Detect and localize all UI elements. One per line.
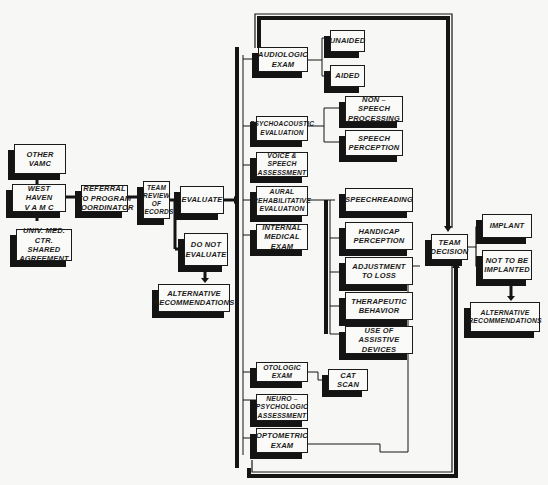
handicap-perception-box: HANDICAP PERCEPTION (345, 222, 413, 250)
aided-box: AIDED (330, 65, 365, 87)
cochlear-implant-evaluation-flowchart: OTHER VAMC WEST HAVEN V A M C UNIV. MED.… (0, 0, 548, 485)
other-vamc-box: OTHER VAMC (14, 144, 66, 174)
univ-med-ctr-box: UNIV. MED. CTR. SHARED AGREEMENT (16, 229, 72, 261)
speech-perception-box: SPEECH PERCEPTION (345, 130, 403, 156)
west-haven-vamc-box: WEST HAVEN V A M C (12, 184, 66, 212)
therapeutic-behavior-box: THERAPEUTIC BEHAVIOR (345, 292, 413, 320)
cat-scan-box: CAT SCAN (328, 369, 368, 391)
not-to-be-implanted-box: NOT TO BE IMPLANTED (482, 250, 532, 280)
voice-speech-assessment-box: VOICE & SPEECH ASSESSMENT (256, 152, 308, 177)
psychoacoustic-evaluation-box: PSYCHOACOUSTIC EVALUATION (256, 116, 308, 141)
implant-box: IMPLANT (482, 214, 532, 238)
neuropsychologic-assessment-box: NEURO – PSYCHOLOGIC ASSESSMENT (256, 394, 308, 421)
speechreading-box: SPEECHREADING (345, 188, 413, 212)
evaluate-box: EVALUATE (180, 186, 224, 214)
optometric-exam-box: OPTOMETRIC EXAM (256, 428, 308, 453)
non-speech-processing-box: NON – SPEECH PROCESSING (345, 96, 403, 122)
team-review-box: TEAM REVIEW OF RECORDS (143, 181, 170, 219)
alternative-recommendations-box-1: ALTERNATIVE RECOMMENDATIONS (158, 284, 230, 312)
audiologic-exam-box: AUDIOLOGIC EXAM (258, 47, 308, 72)
use-of-assistive-devices-box: USE OF ASSISTIVE DEVICES (345, 326, 413, 354)
aural-rehabilitative-evaluation-box: AURAL REHABILITATIVE EVALUATION (256, 186, 308, 216)
unaided-box: UNAIDED (330, 30, 365, 52)
referral-box: REFERRAL TO PROGRAM COORDINATOR (81, 185, 128, 212)
alternative-recommendations-box-2: ALTERNATIVE RECOMMENDATIONS (470, 302, 540, 332)
do-not-evaluate-box: DO NOT EVALUATE (184, 233, 228, 266)
adjustment-to-loss-box: ADJUSTMENT TO LOSS (345, 257, 413, 285)
team-decision-box: TEAM DECISION (431, 234, 468, 260)
otologic-exam-box: OTOLOGIC EXAM (256, 362, 308, 382)
internal-medical-exam-box: INTERNAL MEDICAL EXAM (256, 224, 308, 250)
